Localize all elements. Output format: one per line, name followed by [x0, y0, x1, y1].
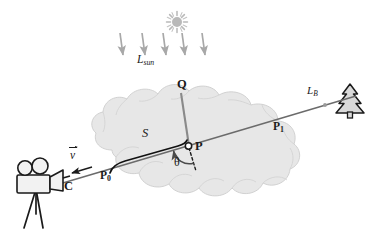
- figure-canvas: Lsun LB Q P P0 P1 C v S θ: [0, 0, 387, 239]
- diagram-graphics: [0, 0, 387, 239]
- label-point-p: P: [195, 140, 203, 153]
- sun-icon: [167, 12, 188, 33]
- label-view-vector: v: [70, 150, 75, 162]
- point-p-marker: [185, 143, 191, 149]
- lb-marker-dot: [323, 103, 327, 107]
- label-background-radiance: LB: [307, 85, 318, 98]
- label-distance-s: S: [142, 127, 148, 140]
- label-point-q: Q: [177, 78, 187, 91]
- label-sun-radiance: Lsun: [137, 54, 154, 67]
- label-point-p0: P0: [100, 170, 111, 183]
- camera-icon: [17, 158, 70, 228]
- sunlight-arrows: [120, 33, 205, 55]
- label-camera-point: C: [64, 180, 73, 193]
- label-point-p1: P1: [273, 121, 284, 134]
- view-direction-arrow: [72, 167, 92, 173]
- label-angle-theta: θ: [174, 156, 180, 168]
